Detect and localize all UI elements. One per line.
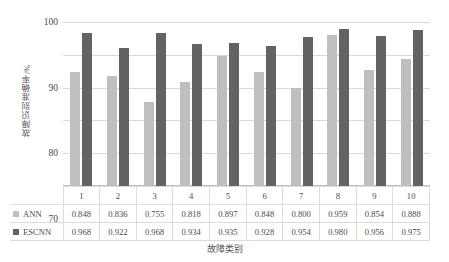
bar-ann-2 (107, 76, 117, 186)
legend-swatch-escnn-icon (13, 229, 19, 235)
table-cell: 0.818 (173, 205, 210, 223)
bar-ann-10 (401, 59, 411, 186)
bar-chart-figure: 故障识别准确率/% 5060708090100 12345678910ANN0.… (0, 0, 449, 262)
bar-group (173, 22, 210, 186)
table-cell: 0.922 (100, 223, 137, 241)
table-cell: 0.848 (63, 205, 100, 223)
bar-escnn-8 (339, 29, 349, 186)
bar-ann-9 (364, 70, 374, 186)
table-cell: 0.928 (246, 223, 283, 241)
table-row: ANN0.8480.8360.7550.8180.8970.8480.8000.… (10, 205, 430, 223)
x-tick-label: 2 (100, 187, 137, 205)
bar-escnn-5 (229, 43, 239, 186)
table-cell: 0.897 (210, 205, 247, 223)
table-cell: 0.975 (393, 223, 430, 241)
bar-ann-7 (291, 88, 301, 186)
bar-escnn-6 (266, 46, 276, 186)
bar-ann-1 (70, 72, 80, 186)
legend-label: ANN (23, 209, 42, 219)
bar-escnn-3 (156, 33, 166, 187)
table-header-row: 12345678910 (10, 187, 430, 205)
bar-escnn-4 (192, 44, 202, 186)
bar-group (247, 22, 284, 186)
table-cell: 0.956 (356, 223, 393, 241)
table-cell: 0.934 (173, 223, 210, 241)
table-corner-cell (10, 187, 63, 205)
bar-ann-8 (327, 35, 337, 186)
bar-group (283, 22, 320, 186)
y-axis-title: 故障识别准确率/% (18, 18, 36, 183)
x-tick-label: 7 (283, 187, 320, 205)
x-tick-label: 8 (319, 187, 356, 205)
bar-group (357, 22, 394, 186)
y-tick-label: 100 (44, 17, 58, 27)
bar-group (136, 22, 173, 186)
table-cell: 0.755 (136, 205, 173, 223)
bar-escnn-10 (413, 30, 423, 186)
bar-ann-5 (217, 56, 227, 186)
y-tick-label: 80 (49, 148, 59, 158)
table-cell: 0.935 (210, 223, 247, 241)
x-tick-label: 4 (173, 187, 210, 205)
bar-group (63, 22, 100, 186)
x-tick-label: 10 (393, 187, 430, 205)
bar-escnn-9 (376, 36, 386, 186)
table-cell: 0.980 (319, 223, 356, 241)
bar-group (210, 22, 247, 186)
x-tick-label: 3 (136, 187, 173, 205)
table-cell: 0.800 (283, 205, 320, 223)
table-row: ESCNN0.9680.9220.9680.9340.9350.9280.954… (10, 223, 430, 241)
table-cell: 0.954 (283, 223, 320, 241)
x-tick-label: 5 (210, 187, 247, 205)
table-cell: 0.848 (246, 205, 283, 223)
table-cell: 0.959 (319, 205, 356, 223)
table-cell: 0.836 (100, 205, 137, 223)
x-tick-label: 9 (356, 187, 393, 205)
data-table: 12345678910ANN0.8480.8360.7550.8180.8970… (10, 186, 430, 241)
legend-entry-escnn: ESCNN (10, 223, 63, 241)
bar-ann-3 (144, 102, 154, 186)
bar-ann-4 (180, 82, 190, 186)
table-cell: 0.968 (63, 223, 100, 241)
bar-ann-6 (254, 72, 264, 186)
bar-escnn-1 (82, 33, 92, 187)
legend-entry-ann: ANN (10, 205, 63, 223)
legend-label: ESCNN (23, 227, 51, 237)
table-cell: 0.968 (136, 223, 173, 241)
x-tick-label: 1 (63, 187, 100, 205)
bar-groups (63, 22, 430, 186)
x-tick-label: 6 (246, 187, 283, 205)
table-cell: 0.854 (356, 205, 393, 223)
table-cell: 0.888 (393, 205, 430, 223)
legend-swatch-ann-icon (13, 211, 19, 217)
y-tick-label: 90 (49, 83, 59, 93)
plot-area: 5060708090100 (63, 22, 430, 186)
bar-escnn-2 (119, 48, 129, 186)
x-axis-title: 故障类别 (0, 242, 449, 255)
bar-group (320, 22, 357, 186)
bar-group (100, 22, 137, 186)
bar-group (393, 22, 430, 186)
bar-escnn-7 (303, 37, 313, 186)
